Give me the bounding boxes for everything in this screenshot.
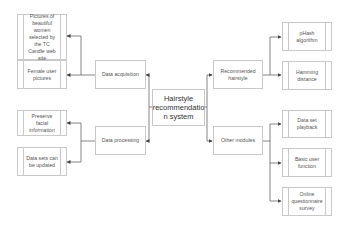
node-hamming-distance: Hamming distance bbox=[282, 61, 332, 90]
node-label: pHash algorithm bbox=[283, 30, 331, 44]
node-female-user-pictures: Female user pictures bbox=[17, 60, 67, 89]
node-label: Data sets can be updated bbox=[18, 155, 66, 169]
node-data-set-playback: Data set playback bbox=[282, 110, 332, 138]
node-label: Hamming distance bbox=[283, 69, 331, 83]
node-data-acquisition: Data acquisition bbox=[95, 60, 146, 89]
node-other-modules: Other modules bbox=[213, 126, 263, 155]
node-phash-algorithm: pHash algorithm bbox=[282, 22, 332, 51]
node-data-processing: Data processing bbox=[95, 126, 146, 155]
node-recommended-hairstyle: Recommended hairstyle bbox=[213, 60, 263, 89]
node-online-questionnaire-survey: Online questionnaire survey bbox=[282, 187, 332, 216]
node-label: Data set playback bbox=[283, 117, 331, 131]
node-label: Online questionnaire survey bbox=[283, 191, 331, 212]
node-label: Recommended hairstyle bbox=[214, 68, 262, 82]
center-label: Hairstyle recommendatio n system bbox=[152, 94, 206, 121]
node-data-sets-updated: Data sets can be updated bbox=[17, 147, 67, 176]
node-label: Preserve facial information bbox=[18, 113, 66, 134]
node-label: Other modules bbox=[218, 137, 258, 144]
node-basic-user-function: Basic user function bbox=[282, 148, 332, 177]
node-label: Data processing bbox=[99, 137, 143, 144]
node-tc-candle-pictures: Pictures of beautiful women selected by … bbox=[17, 14, 67, 60]
node-label: Female user pictures bbox=[18, 68, 66, 82]
node-preserve-facial-information: Preserve facial information bbox=[17, 110, 67, 136]
node-label: Basic user function bbox=[283, 156, 331, 170]
node-label: Pictures of beautiful women selected by … bbox=[18, 13, 66, 62]
node-hairstyle-recommendation-system: Hairstyle recommendatio n system bbox=[152, 89, 205, 126]
node-label: Data acquisition bbox=[99, 71, 142, 78]
